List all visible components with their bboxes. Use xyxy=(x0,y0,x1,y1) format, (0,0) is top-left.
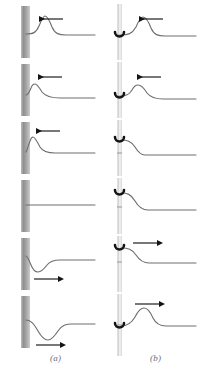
string-pulse-b4 xyxy=(121,193,196,210)
figure-canvas xyxy=(0,0,201,381)
rigid-wall xyxy=(21,64,30,116)
rigid-wall xyxy=(21,6,30,58)
physics-figure-wave-reflection xyxy=(0,0,201,381)
column-a-fixed-end xyxy=(21,6,95,348)
string-pulse-b1 xyxy=(121,17,196,36)
arrow-group-a xyxy=(34,19,63,345)
rigid-wall-group xyxy=(21,6,30,348)
frictionless-pole xyxy=(117,120,122,176)
panel-label-a: (a) xyxy=(50,353,61,363)
frictionless-pole-group xyxy=(117,4,122,356)
column-b-free-end xyxy=(115,4,196,356)
string-pulse-b2 xyxy=(121,85,196,99)
frictionless-pole xyxy=(117,4,122,60)
string-group-a xyxy=(26,16,95,340)
panel-label-b: (b) xyxy=(150,353,161,363)
frictionless-pole xyxy=(117,236,122,292)
rigid-wall xyxy=(21,122,30,174)
string-pulse-a5 xyxy=(26,256,95,272)
string-pulse-b3 xyxy=(121,140,196,155)
frictionless-pole xyxy=(117,62,122,118)
rigid-wall xyxy=(21,296,30,348)
string-pulse-b5 xyxy=(121,248,196,263)
arrow-group-b xyxy=(133,19,163,304)
rigid-wall xyxy=(21,180,30,232)
rigid-wall xyxy=(21,238,30,290)
string-group-b xyxy=(121,17,196,326)
string-pulse-b6 xyxy=(121,308,196,326)
string-pulse-a6 xyxy=(26,320,95,340)
string-pulse-a2 xyxy=(26,84,95,98)
string-pulse-a3 xyxy=(26,137,95,153)
frictionless-pole xyxy=(117,178,122,234)
